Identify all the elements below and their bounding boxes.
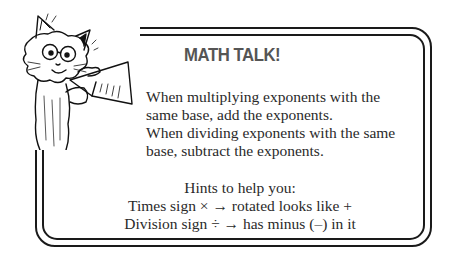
paragraph-line: base, subtract the exponents.: [146, 142, 395, 160]
callout-paragraph: When multiplying exponents with the same…: [146, 88, 395, 160]
cat-with-megaphone-icon: [0, 0, 140, 150]
hint-division-sign: Division sign ÷ → has minus (–) in it: [90, 215, 390, 233]
hints-block: Hints to help you: Times sign × → rotate…: [90, 179, 390, 233]
hint-times-sign: Times sign × → rotated looks like +: [90, 197, 390, 215]
callout-title: MATH TALK!: [184, 44, 280, 66]
paragraph-line: same base, add the exponents.: [146, 106, 395, 124]
hints-heading: Hints to help you:: [90, 179, 390, 197]
paragraph-line: When multiplying exponents with the: [146, 88, 395, 106]
paragraph-line: When dividing exponents with the same: [146, 124, 395, 142]
